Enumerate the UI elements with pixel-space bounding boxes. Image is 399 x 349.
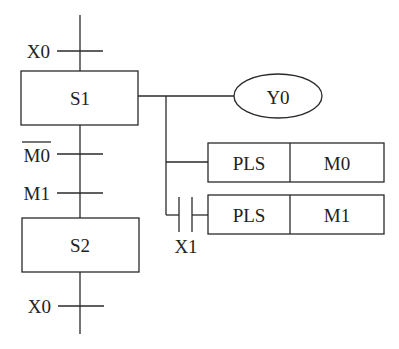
instruction-pls-m0: PLS M0	[208, 143, 384, 182]
transition-label: X0	[28, 296, 51, 317]
sfc-diagram: X0 S1 M0 M1 S2 X0 Y0 PLS M0	[0, 0, 399, 349]
step-s1: S1	[21, 71, 138, 125]
transition-x0-top: X0	[27, 41, 103, 62]
coil-y0: Y0	[234, 74, 322, 118]
instruction-pls-m1: PLS M1	[208, 195, 384, 234]
instruction-operand: M0	[324, 153, 350, 174]
transition-label: M0	[24, 145, 50, 166]
transition-label: M1	[24, 183, 50, 204]
contact-label: X1	[174, 236, 197, 257]
step-label: S2	[70, 235, 90, 256]
transition-m0-negated: M0	[22, 142, 103, 166]
instruction-op: PLS	[233, 153, 266, 174]
contact-x1: X1	[166, 197, 208, 257]
instruction-operand: M1	[324, 205, 350, 226]
step-s2: S2	[22, 218, 139, 272]
coil-label: Y0	[266, 87, 289, 108]
transition-m1: M1	[24, 183, 103, 204]
transition-label: X0	[27, 41, 50, 62]
transition-x0-bottom: X0	[28, 296, 104, 317]
instruction-op: PLS	[233, 205, 266, 226]
step-label: S1	[70, 88, 90, 109]
